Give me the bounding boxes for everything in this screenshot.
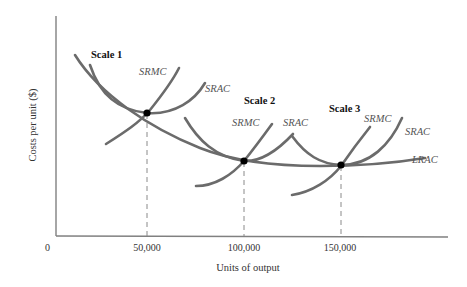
- scale1-label: Scale 1: [91, 49, 122, 60]
- tangency-point-scale1: [143, 109, 150, 116]
- x-tick-50000: 50,000: [133, 242, 161, 253]
- scale3-srac-label: SRAC: [405, 126, 431, 137]
- x-tick-100000: 100,000: [228, 242, 261, 253]
- scale1-srmc-label: SRMC: [139, 66, 167, 77]
- x-axis: [56, 236, 448, 237]
- lrac-label: LRAC: [411, 154, 439, 165]
- tangency-point-scale3: [337, 161, 344, 168]
- lrac-curve: [75, 55, 425, 166]
- x-tick-0: 0: [45, 242, 50, 253]
- x-tick-150000: 150,000: [324, 242, 357, 253]
- scale1-srac-label: SRAC: [205, 83, 231, 94]
- scale3-srmc-curve: [292, 127, 370, 195]
- scale2-srmc-label: SRMC: [232, 117, 260, 128]
- scale3-srmc-label: SRMC: [364, 113, 392, 124]
- y-axis-title: Costs per unit ($): [27, 88, 39, 162]
- x-axis-title: Units of output: [216, 262, 280, 273]
- scale3-label: Scale 3: [329, 103, 360, 114]
- scale2-srmc-curve: [196, 124, 272, 186]
- scale2-srac-label: SRAC: [283, 117, 309, 128]
- scale2-label: Scale 2: [244, 95, 275, 106]
- tangency-point-scale2: [240, 157, 247, 164]
- cost-curves-diagram: Scale 1 SRMC SRAC Scale 2 SRMC SRAC Scal…: [0, 0, 467, 287]
